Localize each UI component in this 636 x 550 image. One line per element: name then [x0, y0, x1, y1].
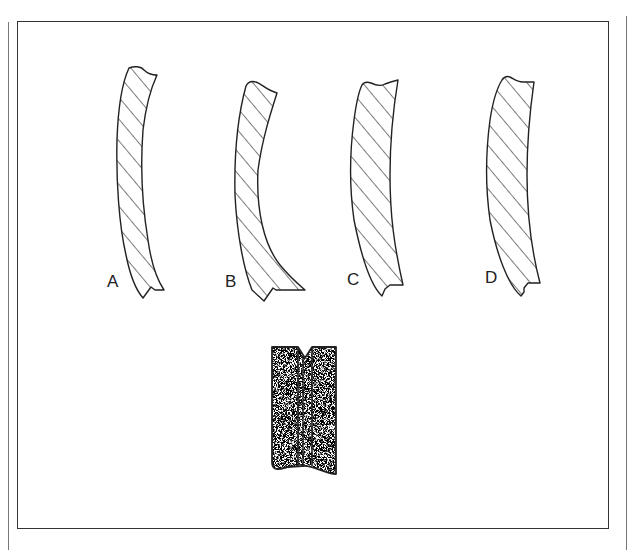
figure-drawing — [0, 0, 636, 550]
profile-a — [117, 67, 164, 298]
stippled-block — [270, 345, 338, 477]
profile-c — [351, 80, 403, 296]
label-c: C — [347, 270, 359, 290]
profile-b — [235, 82, 305, 301]
label-b: B — [225, 272, 236, 292]
profile-d — [487, 77, 540, 296]
label-a: A — [107, 272, 118, 292]
label-d: D — [485, 268, 497, 288]
